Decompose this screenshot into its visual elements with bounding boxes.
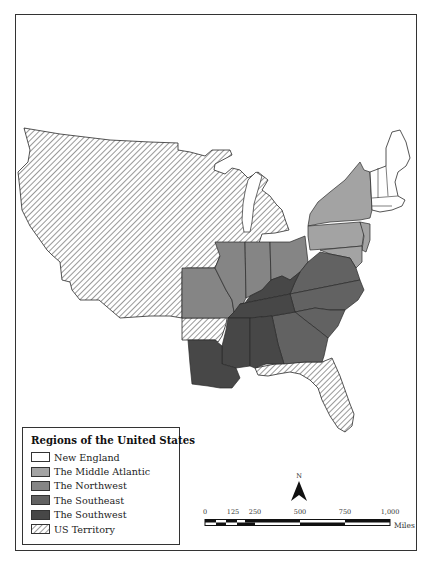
legend-label: US Territory	[54, 524, 115, 535]
north-arrow-icon	[288, 480, 310, 502]
swatch-new-england	[31, 452, 50, 462]
swatch-middle-atlantic	[31, 467, 50, 477]
legend-item-southwest: The Southwest	[31, 508, 179, 522]
swatch-southeast	[31, 495, 50, 505]
region-middle-atlantic-new-york	[308, 162, 372, 226]
scale-tick-1000: 1,000	[381, 508, 400, 516]
scale-unit-label: Miles	[394, 521, 415, 530]
north-label: N	[288, 472, 310, 480]
scale-bar-graphic	[200, 519, 394, 527]
scale-tick-250: 250	[249, 508, 261, 516]
swatch-southwest	[31, 510, 50, 520]
region-middle-atlantic-pennsylvania	[308, 222, 364, 250]
legend-label: The Middle Atlantic	[54, 466, 150, 477]
scale-tick-500: 500	[294, 508, 306, 516]
legend-item-southeast: The Southeast	[31, 493, 179, 507]
north-arrow: N	[288, 472, 310, 506]
legend-item-middle-atlantic: The Middle Atlantic	[31, 464, 179, 478]
scale-tick-750: 750	[339, 508, 351, 516]
region-new-england	[370, 130, 410, 212]
legend-title: Regions of the United States	[31, 434, 179, 446]
legend-label: The Southeast	[54, 495, 124, 506]
region-us-territory-florida	[255, 358, 354, 432]
legend-item-us-territory: US Territory	[31, 522, 179, 536]
legend-label: The Northwest	[54, 480, 127, 491]
legend-label: The Southwest	[54, 509, 127, 520]
swatch-us-territory	[31, 524, 50, 534]
region-southwest-mississippi	[222, 318, 250, 368]
map-legend: Regions of the United States New England…	[22, 427, 180, 545]
legend-item-new-england: New England	[31, 450, 179, 464]
legend-label: New England	[54, 452, 120, 463]
legend-item-northwest: The Northwest	[31, 479, 179, 493]
scale-tick-125: 125	[227, 508, 239, 516]
swatch-northwest	[31, 481, 50, 491]
scale-tick-0: 0	[203, 508, 207, 516]
